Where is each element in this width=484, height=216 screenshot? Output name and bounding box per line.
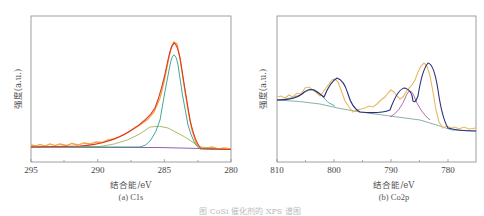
panel-co2p: 810 800 790 780 结合能/eV 强度(a.u.) (b) Co2p — [258, 16, 476, 202]
raw-data-b — [277, 63, 476, 129]
component-cc-a — [31, 55, 231, 150]
x-ticks-b — [277, 159, 448, 162]
x-tick-label: 780 — [441, 165, 455, 175]
subcaption-a: (a) C1s — [119, 192, 144, 202]
x-axis-title-b: 结合能/eV — [373, 180, 415, 190]
y-axis-title-b: 强度(a.u.) — [258, 69, 268, 110]
raw-data-a — [31, 42, 231, 149]
plot-frame-b — [277, 16, 476, 162]
x-tick-label: 790 — [384, 165, 398, 175]
x-ticks-a — [31, 159, 231, 162]
plot-frame-a — [31, 16, 231, 162]
figure-caption: 图 CoSi 催化剂的 XPS 谱图 — [199, 206, 301, 216]
xps-figure: 295 290 285 280 结合能/eV 强度(a.u.) (a) C1s … — [0, 0, 484, 216]
x-tick-label: 810 — [270, 165, 284, 175]
x-axis-title-a: 结合能/eV — [110, 180, 152, 190]
x-tick-label: 290 — [91, 165, 105, 175]
fit-envelope-a — [31, 43, 231, 150]
fit-envelope-b — [277, 63, 476, 131]
x-tick-label: 295 — [24, 165, 38, 175]
x-tick-label: 800 — [327, 165, 341, 175]
subcaption-b: (b) Co2p — [379, 192, 409, 202]
x-tick-label: 280 — [224, 165, 238, 175]
x-tick-label: 285 — [158, 165, 172, 175]
panel-c1s: 295 290 285 280 结合能/eV 强度(a.u.) (a) C1s — [13, 16, 238, 202]
y-axis-title-a: 强度(a.u.) — [13, 69, 23, 110]
